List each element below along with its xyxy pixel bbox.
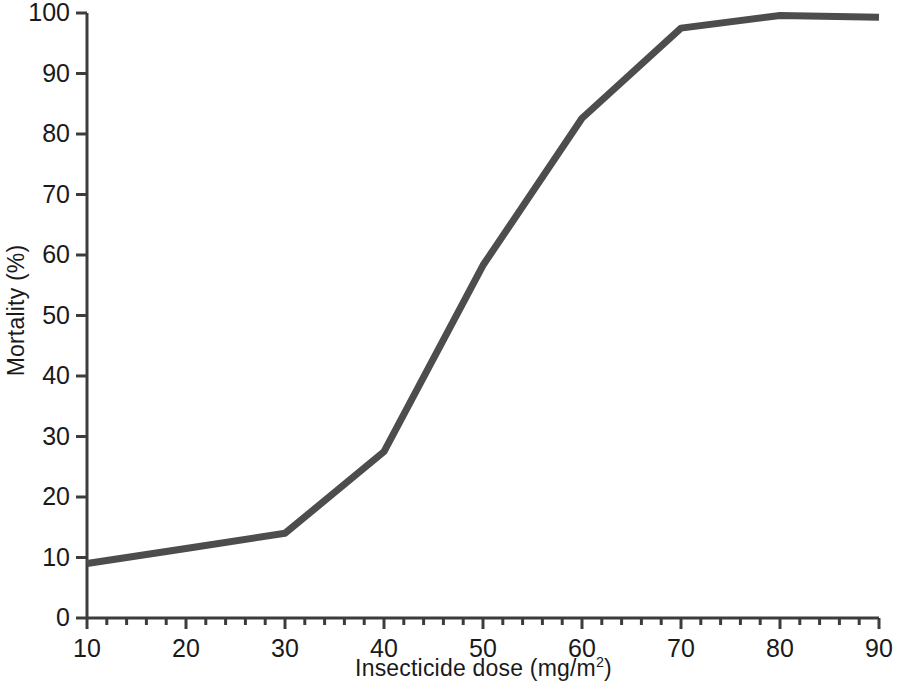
x-tick-marks: [87, 618, 879, 629]
x-axis-title-text: Insecticide dose (mg/m: [355, 655, 596, 681]
x-axis-title: Insecticide dose (mg/m2): [87, 655, 880, 682]
axis-lines: [87, 13, 879, 618]
x-axis-title-suffix: ): [604, 655, 612, 681]
x-axis-title-superscript: 2: [596, 654, 604, 670]
data-series-group: [87, 15, 879, 563]
y-tick-marks: [76, 13, 87, 618]
data-line-mortality: [87, 15, 879, 563]
